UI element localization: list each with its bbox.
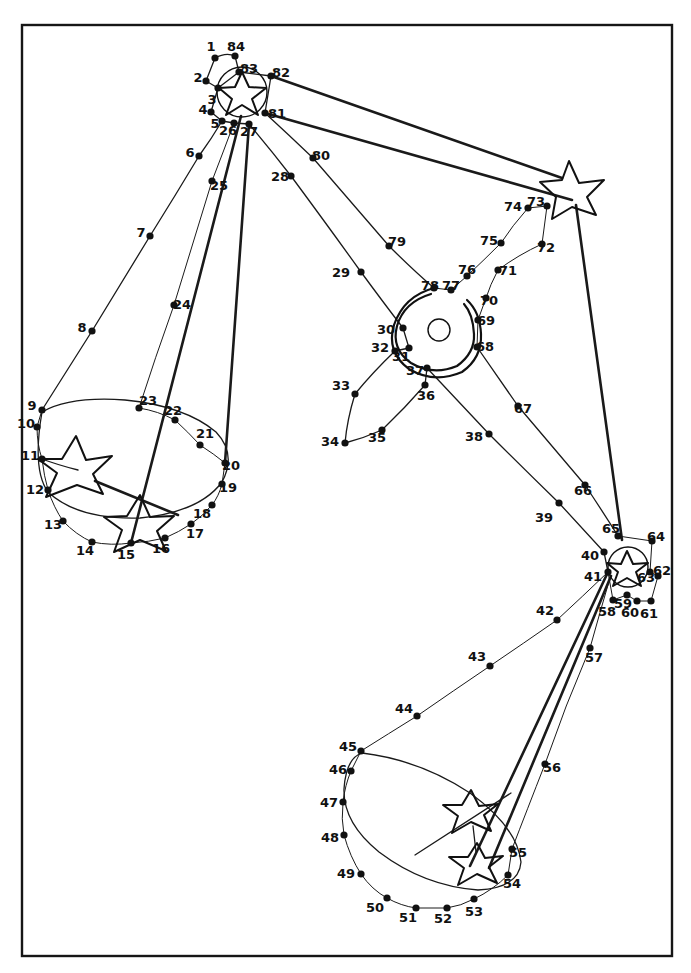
dots-layer: [33, 52, 661, 911]
dot-number-11: 11: [21, 448, 39, 463]
dot-number-74: 74: [504, 199, 522, 214]
dot-number-6: 6: [185, 145, 194, 160]
puzzle-dot-47[interactable]: [339, 798, 346, 805]
dot-number-17: 17: [186, 526, 204, 541]
dot-number-67: 67: [514, 401, 532, 416]
star-bottom-upper: [443, 790, 498, 833]
puzzle-dot-37[interactable]: [423, 364, 430, 371]
puzzle-dot-7[interactable]: [146, 232, 153, 239]
puzzle-dot-21[interactable]: [196, 441, 203, 448]
dot-number-10: 10: [17, 416, 35, 431]
dot-number-7: 7: [136, 225, 145, 240]
dot-number-43: 43: [468, 649, 486, 664]
dot-number-61: 61: [640, 606, 658, 621]
dot-number-24: 24: [173, 297, 191, 312]
puzzle-dot-2[interactable]: [202, 77, 209, 84]
dot-number-9: 9: [27, 398, 36, 413]
dot-number-80: 80: [312, 148, 330, 163]
dot-number-46: 46: [329, 762, 347, 777]
dot-number-31: 31: [392, 349, 410, 364]
star-top: [219, 72, 266, 115]
puzzle-dot-75[interactable]: [497, 239, 504, 246]
puzzle-dot-30[interactable]: [399, 324, 406, 331]
puzzle-dot-45[interactable]: [357, 747, 364, 754]
dot-number-65: 65: [602, 521, 620, 536]
dot-number-63: 63: [637, 570, 655, 585]
dot-number-54: 54: [503, 876, 521, 891]
puzzle-dot-43[interactable]: [486, 662, 493, 669]
puzzle-dot-6[interactable]: [195, 152, 202, 159]
dot-number-57: 57: [585, 650, 603, 665]
dot-number-68: 68: [476, 339, 494, 354]
puzzle-dot-1[interactable]: [211, 54, 218, 61]
puzzle-dot-53[interactable]: [470, 895, 477, 902]
dot-number-20: 20: [222, 458, 240, 473]
puzzle-dot-8[interactable]: [88, 327, 95, 334]
dot-number-70: 70: [480, 293, 498, 308]
puzzle-dot-50[interactable]: [383, 894, 390, 901]
puzzle-dot-11[interactable]: [38, 455, 45, 462]
dot-number-8: 8: [77, 320, 86, 335]
puzzle-dot-40[interactable]: [600, 548, 607, 555]
puzzle-dot-46[interactable]: [347, 767, 354, 774]
dot-number-79: 79: [388, 234, 406, 249]
dot-number-48: 48: [321, 830, 339, 845]
dot-number-1: 1: [206, 39, 215, 54]
dot-number-28: 28: [271, 169, 289, 184]
dot-number-51: 51: [399, 910, 417, 925]
puzzle-dot-38[interactable]: [485, 430, 492, 437]
puzzle-dot-48[interactable]: [340, 831, 347, 838]
dot-number-44: 44: [395, 701, 413, 716]
dot-number-15: 15: [117, 547, 135, 562]
dot-number-19: 19: [219, 480, 237, 495]
dot-number-56: 56: [543, 760, 561, 775]
puzzle-dot-49[interactable]: [357, 870, 364, 877]
puzzle-canvas: 1234567891011121314151617181920212223242…: [0, 0, 691, 973]
dot-number-77: 77: [442, 278, 460, 293]
puzzle-dot-41[interactable]: [604, 568, 611, 575]
dot-number-55: 55: [509, 845, 527, 860]
dot-number-50: 50: [366, 900, 384, 915]
dot-number-4: 4: [198, 102, 207, 117]
dot-number-29: 29: [332, 265, 350, 280]
dot-number-49: 49: [337, 866, 355, 881]
puzzle-artwork: 1234567891011121314151617181920212223242…: [0, 0, 691, 973]
dot-number-81: 81: [268, 106, 286, 121]
puzzle-dot-44[interactable]: [413, 712, 420, 719]
dot-number-37: 37: [406, 363, 424, 378]
dot-number-42: 42: [536, 603, 554, 618]
puzzle-dot-33[interactable]: [351, 390, 358, 397]
puzzle-dot-34[interactable]: [341, 439, 348, 446]
dot-number-75: 75: [480, 233, 498, 248]
dot-number-78: 78: [421, 278, 439, 293]
puzzle-dot-61[interactable]: [647, 597, 654, 604]
dot-number-26: 26: [219, 123, 237, 138]
dot-number-2: 2: [193, 70, 202, 85]
dot-number-27: 27: [240, 124, 258, 139]
dot-number-36: 36: [417, 388, 435, 403]
dot-number-66: 66: [574, 483, 592, 498]
dot-number-35: 35: [368, 430, 386, 445]
puzzle-dot-39[interactable]: [555, 499, 562, 506]
dot-number-25: 25: [210, 178, 228, 193]
puzzle-dot-12[interactable]: [44, 486, 51, 493]
dot-number-13: 13: [44, 517, 62, 532]
puzzle-dot-9[interactable]: [38, 406, 45, 413]
dot-number-34: 34: [321, 434, 339, 449]
dot-number-72: 72: [537, 240, 555, 255]
dot-number-14: 14: [76, 543, 94, 558]
dot-number-60: 60: [621, 605, 639, 620]
dot-number-3: 3: [207, 92, 216, 107]
dot-number-39: 39: [535, 510, 553, 525]
dot-number-22: 22: [164, 403, 182, 418]
puzzle-dot-29[interactable]: [357, 268, 364, 275]
puzzle-dot-42[interactable]: [553, 616, 560, 623]
dot-number-76: 76: [458, 262, 476, 277]
dot-number-45: 45: [339, 739, 357, 754]
dot-number-41: 41: [584, 569, 602, 584]
star-upper-right: [540, 161, 604, 219]
dot-number-62: 62: [653, 563, 671, 578]
dot-number-82: 82: [272, 65, 290, 80]
dot-number-71: 71: [499, 263, 517, 278]
dot-number-69: 69: [477, 313, 495, 328]
